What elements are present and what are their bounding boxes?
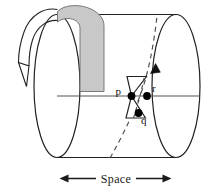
diagram-canvas: p r q Space: [0, 0, 213, 195]
space-axis-right-arrowhead: [163, 175, 172, 183]
cylinder-left-cap: [34, 15, 80, 158]
spacetime-diagram-figure: p r q Space: [0, 0, 213, 195]
space-axis-label: Space: [101, 172, 132, 186]
cylinder-right-cap: [152, 15, 200, 158]
point-q-label: q: [141, 114, 147, 126]
worldline-arrowhead: [151, 64, 161, 74]
point-r-label: r: [152, 82, 156, 94]
rotation-arrowhead: [19, 63, 30, 87]
point-p-dot: [128, 92, 136, 100]
space-axis-left-arrowhead: [60, 175, 69, 183]
space-axis: Space: [60, 172, 172, 186]
point-p-label: p: [116, 85, 122, 97]
point-r-dot: [143, 92, 151, 100]
